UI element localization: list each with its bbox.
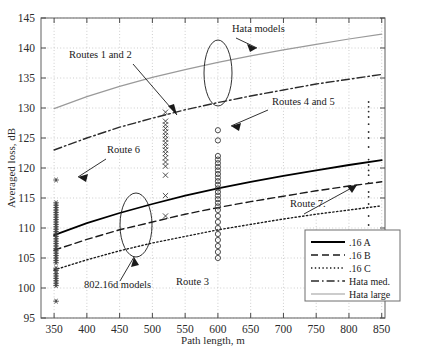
annotation-models-802-16d: 802.16d models	[84, 279, 151, 290]
scatter-marker-dot	[368, 131, 370, 133]
y-tick-label: 95	[24, 312, 36, 324]
y-axis-label: Averaged loss, dB	[5, 128, 17, 208]
legend-label-0: .16 A	[349, 237, 371, 248]
legend-label-1: .16 B	[349, 250, 371, 261]
legend-label-4: Hata large	[349, 289, 391, 300]
scatter-marker-dot	[368, 170, 370, 172]
x-axis-label: Path length, m	[181, 334, 245, 346]
y-tick-label: 100	[18, 282, 36, 294]
y-tick-label: 105	[18, 252, 36, 264]
y-tick-label: 135	[18, 72, 36, 84]
scatter-marker-dot	[368, 159, 370, 161]
scatter-marker-dot	[368, 116, 370, 118]
x-tick-label: 500	[144, 323, 162, 335]
scatter-marker-dot	[368, 137, 370, 139]
legend-label-2: .16 C	[349, 263, 371, 274]
scatter-marker-dot	[368, 101, 370, 103]
scatter-marker-dot	[368, 196, 370, 198]
scatter-marker-dot	[368, 215, 370, 217]
x-tick-label: 450	[111, 323, 129, 335]
annotation-route-6: Route 6	[107, 144, 140, 155]
x-tick-label: 350	[45, 323, 63, 335]
legend-label-3: Hata med.	[349, 276, 390, 287]
averaged-loss-vs-path-length-chart: 3504004505005506006507007508008509510010…	[0, 0, 435, 356]
x-tick-label: 400	[78, 323, 96, 335]
x-tick-label: 750	[308, 323, 326, 335]
scatter-marker-dot	[368, 146, 370, 148]
x-tick-label: 700	[275, 323, 293, 335]
scatter-marker-dot	[368, 111, 370, 113]
annotation-route-7: Route 7.	[290, 198, 326, 209]
scatter-marker-dot	[368, 123, 370, 125]
y-tick-label: 130	[18, 102, 36, 114]
y-tick-label: 115	[18, 192, 35, 204]
y-tick-label: 110	[18, 222, 35, 234]
scatter-marker-dot	[368, 174, 370, 176]
annotation-route-3: Route 3	[176, 276, 209, 287]
y-tick-label: 120	[18, 162, 36, 174]
scatter-marker-dot	[368, 191, 370, 193]
annotation-routes-1-and-2: Routes 1 and 2	[69, 49, 132, 60]
annotation-routes-4-and-5: Routes 4 and 5	[272, 96, 335, 107]
scatter-marker-dot	[368, 106, 370, 108]
scatter-marker-dot	[368, 164, 370, 166]
y-tick-label: 125	[18, 132, 36, 144]
chart-figure: 3504004505005506006507007508008509510010…	[0, 0, 435, 356]
x-tick-label: 800	[340, 323, 358, 335]
scatter-marker-dot	[368, 182, 370, 184]
scatter-marker-dot	[368, 203, 370, 205]
scatter-marker-dot	[368, 224, 370, 226]
x-tick-label: 850	[373, 323, 391, 335]
y-tick-label: 145	[18, 12, 36, 24]
y-tick-label: 140	[18, 42, 36, 54]
annotation-hata-models: Hata models	[232, 23, 285, 34]
